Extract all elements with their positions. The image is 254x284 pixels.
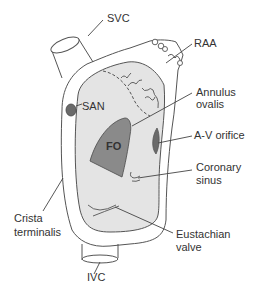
right-atrium-diagram: SVC RAA Annulus ovalis SAN A-V orifice F… bbox=[0, 0, 254, 284]
label-eustachian-1: Eustachian bbox=[176, 228, 230, 240]
label-eustachian-2: valve bbox=[176, 241, 202, 253]
label-svc: SVC bbox=[107, 12, 130, 24]
label-ivc: IVC bbox=[87, 271, 105, 283]
label-av-orifice: A-V orifice bbox=[194, 129, 245, 141]
label-fo: FO bbox=[106, 140, 122, 152]
crista-leader bbox=[43, 178, 63, 211]
svc-opening bbox=[49, 34, 81, 56]
label-crista-2: terminalis bbox=[14, 226, 62, 238]
ivc-vessel bbox=[82, 244, 118, 263]
svc-leader bbox=[88, 20, 103, 36]
san-node bbox=[66, 104, 76, 116]
label-coronary-1: Coronary bbox=[196, 161, 242, 173]
label-annulus-2: ovalis bbox=[196, 98, 225, 110]
av-leader bbox=[158, 136, 192, 143]
label-coronary-2: sinus bbox=[196, 174, 222, 186]
label-san: SAN bbox=[82, 100, 105, 112]
label-annulus-1: Annulus bbox=[196, 86, 236, 98]
label-crista-1: Crista bbox=[14, 212, 44, 224]
label-raa: RAA bbox=[194, 37, 217, 49]
